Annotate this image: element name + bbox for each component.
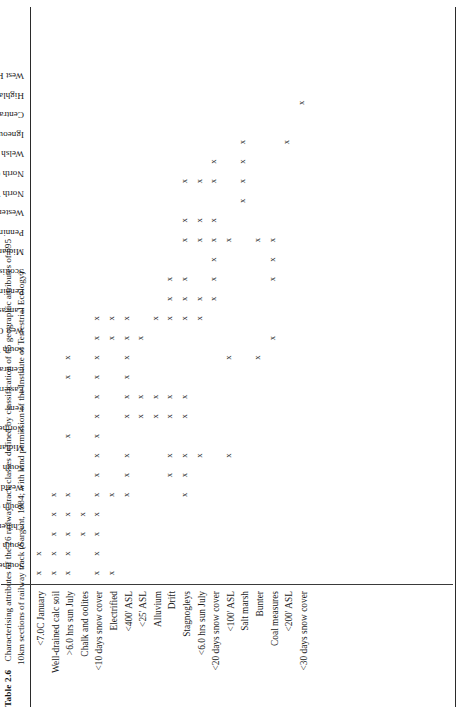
- cell-marked: x: [177, 269, 192, 289]
- cell-empty: [162, 152, 177, 172]
- cell-empty: [148, 132, 163, 152]
- cell-empty: [60, 211, 75, 231]
- cell-empty: [206, 407, 221, 427]
- cell-marked: x: [177, 465, 192, 485]
- cell-empty: [75, 328, 90, 348]
- cell-empty: [235, 73, 250, 93]
- cell-empty: [250, 505, 265, 525]
- cell-marked: x: [235, 171, 250, 191]
- cell-empty: [221, 171, 236, 191]
- cell-empty: [294, 465, 309, 485]
- cell-empty: [279, 250, 294, 270]
- cell-empty: [89, 93, 104, 113]
- cell-empty: [235, 465, 250, 485]
- column-header: Pennines: [0, 227, 24, 237]
- cell-empty: [221, 544, 236, 564]
- cell-empty: [162, 524, 177, 544]
- cell-empty: [235, 367, 250, 387]
- cell-empty: [206, 73, 221, 93]
- cell-empty: [31, 93, 46, 113]
- cell-empty: [104, 73, 119, 93]
- cell-empty: [294, 309, 309, 329]
- cell-empty: [31, 230, 46, 250]
- cell-marked: x: [206, 289, 221, 309]
- cell-empty: [192, 465, 207, 485]
- cell-empty: [235, 563, 250, 583]
- cell-empty: [119, 230, 134, 250]
- cell-marked: x: [119, 446, 134, 466]
- cell-empty: [192, 426, 207, 446]
- cell-empty: [46, 250, 61, 270]
- cell-empty: [104, 407, 119, 427]
- cell-marked: x: [265, 269, 280, 289]
- cell-empty: [148, 171, 163, 191]
- cell-marked: x: [89, 465, 104, 485]
- cell-empty: [104, 93, 119, 113]
- cell-empty: [31, 524, 46, 544]
- cell-empty: [31, 426, 46, 446]
- cell-empty: [104, 465, 119, 485]
- cell-marked: x: [60, 544, 75, 564]
- cell-empty: [31, 485, 46, 505]
- cell-empty: [46, 269, 61, 289]
- cell-empty: [294, 367, 309, 387]
- row-label: <100' ASL: [224, 587, 239, 707]
- cell-empty: [75, 465, 90, 485]
- cell-marked: x: [133, 387, 148, 407]
- cell-empty: [162, 563, 177, 583]
- cell-marked: x: [250, 348, 265, 368]
- cell-empty: [294, 250, 309, 270]
- cell-empty: [265, 73, 280, 93]
- column-header: Welsh Uplands: [0, 149, 24, 159]
- cell-empty: [148, 250, 163, 270]
- table-row: x: [279, 7, 294, 583]
- cell-marked: x: [31, 544, 46, 564]
- cell-marked: x: [206, 211, 221, 231]
- cell-empty: [221, 563, 236, 583]
- cell-empty: [206, 367, 221, 387]
- cell-marked: x: [46, 563, 61, 583]
- cell-empty: [279, 269, 294, 289]
- cell-empty: [46, 289, 61, 309]
- column-header: Central Southern: [0, 364, 24, 374]
- cell-empty: [75, 93, 90, 113]
- cell-empty: [265, 485, 280, 505]
- cell-empty: [119, 289, 134, 309]
- cell-marked: x: [133, 407, 148, 427]
- cell-empty: [46, 191, 61, 211]
- cell-empty: [221, 250, 236, 270]
- cell-empty: [177, 152, 192, 172]
- cell-empty: [60, 230, 75, 250]
- cell-empty: [206, 544, 221, 564]
- cell-empty: [133, 367, 148, 387]
- cell-empty: [104, 230, 119, 250]
- cell-empty: [177, 191, 192, 211]
- cell-empty: [31, 367, 46, 387]
- cell-empty: [89, 211, 104, 231]
- cell-empty: [265, 465, 280, 485]
- cell-marked: x: [119, 309, 134, 329]
- cell-marked: x: [60, 348, 75, 368]
- row-label: <10 days snow cover: [92, 587, 107, 707]
- cell-empty: [250, 485, 265, 505]
- cell-empty: [75, 348, 90, 368]
- cell-empty: [75, 171, 90, 191]
- cell-marked: x: [235, 132, 250, 152]
- cell-empty: [60, 407, 75, 427]
- table-rule-bottom: [455, 7, 456, 707]
- cell-empty: [148, 446, 163, 466]
- table-number: Table 2.6: [3, 670, 13, 707]
- cell-empty: [235, 446, 250, 466]
- cell-empty: [235, 309, 250, 329]
- cell-empty: [206, 113, 221, 133]
- cell-empty: [279, 446, 294, 466]
- cell-marked: x: [148, 387, 163, 407]
- cell-empty: [294, 348, 309, 368]
- cell-empty: [235, 113, 250, 133]
- cell-empty: [31, 132, 46, 152]
- cell-empty: [221, 387, 236, 407]
- cell-empty: [75, 269, 90, 289]
- row-label: <200' ASL: [282, 587, 297, 707]
- cell-marked: x: [162, 269, 177, 289]
- cell-marked: x: [119, 348, 134, 368]
